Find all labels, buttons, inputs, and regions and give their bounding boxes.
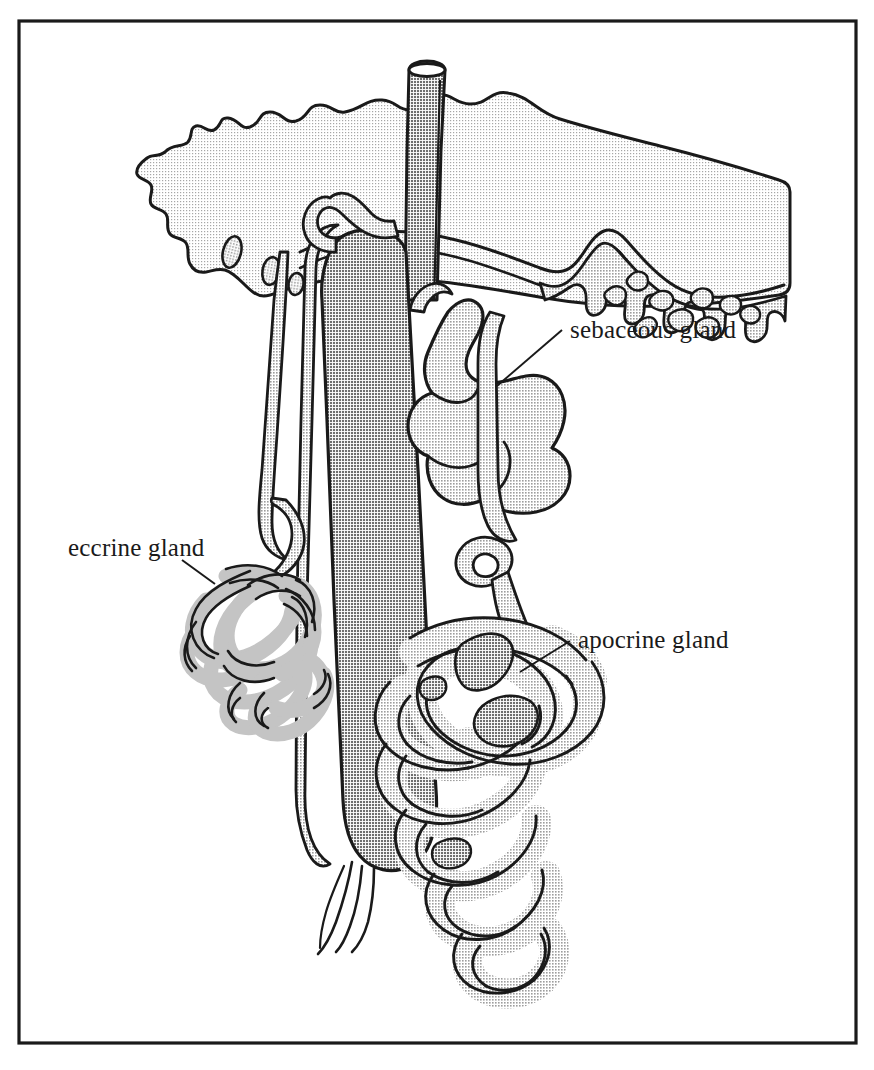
apocrine-lumen-shadow [420,677,447,700]
papilla-detail [649,291,673,311]
hair-shaft-cut-end [409,64,445,77]
papilla-detail [740,306,760,323]
papilla-detail [720,296,741,314]
papilla-detail [627,272,648,291]
eccrine-gland-label: eccrine gland [68,534,205,561]
skin-gland-diagram: sebaceous gland eccrine gland apocrine g… [0,0,874,1070]
apocrine-gland-label: apocrine gland [578,626,729,653]
apocrine-lumen-shadow [432,839,471,869]
sebaceous-gland-label: sebaceous gland [570,316,736,343]
papilla-detail [604,286,626,305]
figure-root: sebaceous gland eccrine gland apocrine g… [0,0,874,1070]
papilla-detail [691,288,713,308]
